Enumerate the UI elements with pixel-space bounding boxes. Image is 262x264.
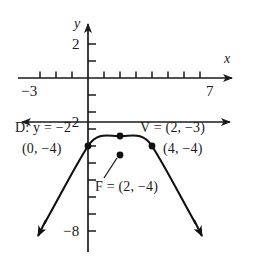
point-right (149, 143, 156, 150)
point-vertex (117, 133, 124, 140)
parabola-figure: x y −3 7 2 −2 −8 D: y = −2 V = (2, −3) (… (0, 0, 262, 264)
right-point-label: (4, −4) (163, 142, 203, 156)
focus-leader-line (104, 158, 117, 178)
curve-arrow-right (194, 220, 202, 236)
x-tick-label-7: 7 (206, 84, 214, 99)
directrix-label: D: y = −2 (15, 121, 71, 135)
x-axis-ticks (40, 72, 200, 79)
x-tick-label-neg3: −3 (21, 84, 37, 99)
x-axis-label: x (224, 52, 230, 66)
point-y-intercept (85, 143, 92, 150)
y-intercept-label: (0, −4) (22, 142, 62, 156)
y-tick-label-2: 2 (72, 37, 80, 52)
vertex-label: V = (2, −3) (140, 121, 205, 135)
y-axis-label: y (74, 17, 80, 31)
y-tick-label-neg8: −8 (63, 224, 79, 239)
curve-arrow-left (38, 220, 46, 236)
focus-label: F = (2, −4) (95, 180, 158, 194)
x-axis (18, 72, 232, 79)
point-focus (117, 152, 124, 159)
